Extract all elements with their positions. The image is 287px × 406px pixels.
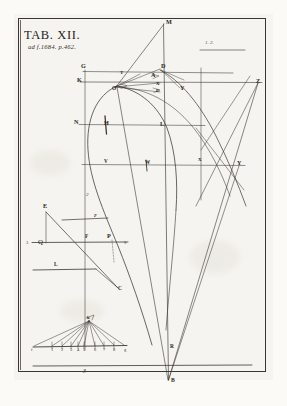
fig2-point-label-E: E bbox=[43, 203, 47, 209]
fig3-apex-label: k bbox=[87, 315, 90, 320]
curve-through-Y bbox=[118, 87, 230, 196]
fig3-pencil-of-lines bbox=[34, 321, 124, 346]
axis-horizontal-K bbox=[80, 82, 262, 83]
fig3-tick-label: 5 bbox=[83, 348, 85, 352]
fig2-point-label-F-top: F bbox=[94, 214, 97, 219]
fig3-tick-label: 4 bbox=[77, 348, 79, 352]
point-label-V: V bbox=[104, 159, 108, 164]
page-subtitle: ad f.1684. p.462. bbox=[28, 43, 76, 50]
point-label-H: H bbox=[104, 120, 109, 126]
fig3-tick-label: 1 bbox=[51, 348, 53, 352]
line-M-O bbox=[116, 24, 164, 87]
point-label-R: R bbox=[170, 344, 174, 349]
fig2-point-label-L: L bbox=[54, 262, 58, 267]
point-label-Y-lower: Y bbox=[237, 160, 241, 166]
fig2-line-L-C bbox=[96, 269, 118, 288]
line-Z-B bbox=[169, 83, 259, 380]
point-label-X-upper: X bbox=[156, 81, 160, 86]
corner-note: 1. 2. bbox=[205, 40, 214, 45]
point-label-O: O bbox=[112, 86, 116, 91]
fig2-point-label-F: F bbox=[85, 234, 88, 239]
axis-horizontal-V bbox=[82, 165, 245, 166]
point-label-G: G bbox=[81, 63, 86, 69]
fig3-right-label: g bbox=[124, 348, 126, 352]
line-O-E bbox=[115, 87, 160, 92]
fig3-left-label: f bbox=[31, 348, 32, 352]
fig2-label-3: 3 bbox=[26, 241, 28, 245]
axis-horizontal-N bbox=[79, 125, 205, 126]
fig3-tick-label: 7 bbox=[103, 348, 105, 352]
curve-secondary-right bbox=[160, 70, 246, 206]
point-label-A: A bbox=[151, 72, 155, 78]
point-label-T: T bbox=[120, 70, 123, 75]
curve-loop-right-upper bbox=[117, 86, 177, 210]
line-O-B bbox=[117, 87, 168, 380]
figure-number-3: 3 bbox=[83, 368, 86, 374]
point-label-E-upper: E bbox=[156, 88, 159, 93]
fig3-tick-label: 8 bbox=[113, 348, 115, 352]
point-label-D: D bbox=[161, 63, 165, 69]
point-label-B: B bbox=[171, 378, 175, 384]
line-Y-B bbox=[169, 166, 240, 380]
fig2-segment-L bbox=[33, 269, 96, 270]
point-label-Z: Z bbox=[256, 78, 260, 84]
point-label-M: M bbox=[166, 19, 172, 25]
fig2-point-label-S: S bbox=[124, 241, 126, 245]
fig3-tick-label: 2 bbox=[61, 348, 63, 352]
point-label-W: W bbox=[145, 160, 150, 165]
fig3-tick-label: 3 bbox=[70, 348, 72, 352]
fig2-line-E-C bbox=[46, 212, 118, 288]
fig2-point-label-P: P bbox=[107, 233, 111, 239]
fig3-lower-rule bbox=[33, 365, 252, 366]
curve-loop-right-lower bbox=[166, 210, 176, 330]
fig3-tick-label: 6 bbox=[94, 348, 96, 352]
fig2-point-label-Q: Q bbox=[38, 239, 43, 246]
point-label-Y-upper: Y bbox=[180, 85, 184, 91]
fig2-point-label-C: C bbox=[118, 286, 122, 291]
fig2-baseline bbox=[32, 242, 128, 243]
figure-number-2: 2 bbox=[86, 192, 89, 197]
axis-horizontal-G bbox=[83, 72, 233, 74]
engraved-plate: TAB. XII. ad f.1684. p.462. 1. 2. M D G … bbox=[0, 0, 287, 406]
point-label-K: K bbox=[77, 77, 82, 83]
point-label-X-lower: X bbox=[198, 157, 202, 162]
page-title: TAB. XII. bbox=[24, 28, 80, 43]
point-label-N: N bbox=[74, 119, 78, 125]
point-label-L-main: L bbox=[160, 121, 164, 127]
fig2-dashed-P bbox=[112, 240, 114, 262]
